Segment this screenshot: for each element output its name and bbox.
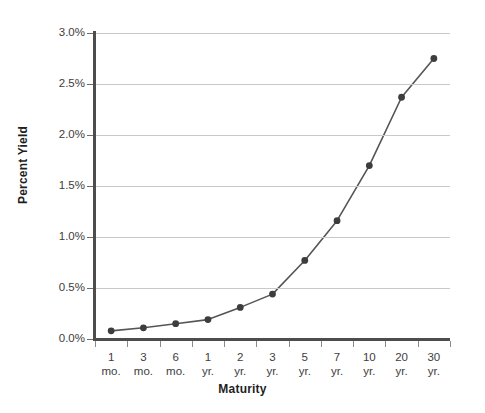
data-point xyxy=(301,257,308,264)
x-tick xyxy=(385,341,386,347)
y-tick-label: 3.0% xyxy=(39,27,85,38)
x-axis-title: Maturity xyxy=(0,382,485,396)
x-tick xyxy=(418,341,419,347)
x-tick xyxy=(353,341,354,347)
x-tick xyxy=(192,341,193,347)
x-tick xyxy=(224,341,225,347)
y-tick-label: 0.5% xyxy=(39,282,85,293)
data-point xyxy=(334,217,341,224)
y-axis-line xyxy=(93,31,96,341)
y-tick-label: 2.5% xyxy=(39,78,85,89)
yield-curve-chart: 0.0%0.5%1.0%1.5%2.0%2.5%3.0% 1mo.3mo.6mo… xyxy=(0,0,485,413)
x-axis-line xyxy=(93,338,450,341)
x-tick-label: 30yr. xyxy=(411,350,457,378)
gridline xyxy=(95,288,450,289)
y-axis-title: Percent Yield xyxy=(16,100,30,230)
y-tick-label: 1.5% xyxy=(39,180,85,191)
data-point xyxy=(237,304,244,311)
series-polyline xyxy=(111,59,434,331)
x-tick xyxy=(450,341,451,347)
x-tick xyxy=(95,341,96,347)
gridline xyxy=(95,237,450,238)
gridline xyxy=(95,186,450,187)
y-axis-labels: 0.0%0.5%1.0%1.5%2.0%2.5%3.0% xyxy=(33,0,85,413)
data-point xyxy=(140,324,147,331)
series-markers xyxy=(108,55,438,334)
y-tick-label: 0.0% xyxy=(39,333,85,344)
y-tick-label: 1.0% xyxy=(39,231,85,242)
data-point xyxy=(108,327,115,334)
x-tick xyxy=(160,341,161,347)
x-tick xyxy=(321,341,322,347)
x-tick xyxy=(127,341,128,347)
data-point xyxy=(269,291,276,298)
x-tick xyxy=(256,341,257,347)
gridline xyxy=(95,135,450,136)
gridline xyxy=(95,84,450,85)
x-tick xyxy=(289,341,290,347)
data-point xyxy=(398,94,405,101)
x-tick-label-unit: yr. xyxy=(411,364,457,378)
data-point xyxy=(430,55,437,62)
data-point xyxy=(172,320,179,327)
y-tick-label: 2.0% xyxy=(39,129,85,140)
data-point xyxy=(205,316,212,323)
x-tick-label-value: 30 xyxy=(411,350,457,364)
data-point xyxy=(366,162,373,169)
gridline xyxy=(95,33,450,34)
